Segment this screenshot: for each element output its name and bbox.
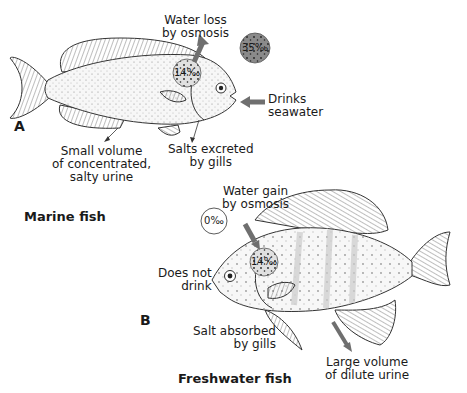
- water-loss-label: Water loss by osmosis: [162, 14, 229, 40]
- salts-pointer: [193, 120, 199, 140]
- internal-concentration-a: 14‰: [172, 67, 202, 78]
- marine-fish-drawing: [10, 38, 236, 135]
- salt-b-line2: by gills: [193, 338, 276, 351]
- marine-fish-title: Marine fish: [24, 210, 106, 223]
- does-not-drink-label: Does not drink: [158, 267, 212, 293]
- panel-a-letter: A: [14, 118, 25, 134]
- internal-concentration-b: 14‰: [249, 256, 279, 267]
- salts-excreted-label: Salts excreted by gills: [168, 143, 254, 169]
- water-gain-label: Water gain by osmosis: [222, 185, 289, 211]
- no-drink-line2: drink: [158, 280, 212, 293]
- drinks-seawater-arrow: [240, 96, 265, 108]
- drinks-line2: seawater: [268, 106, 323, 119]
- drinks-seawater-label: Drinks seawater: [268, 93, 323, 119]
- external-concentration-a: 35‰: [240, 42, 270, 53]
- freshwater-fish-title: Freshwater fish: [178, 372, 292, 385]
- panel-b-letter: B: [140, 312, 151, 328]
- external-concentration-b: 0‰: [199, 215, 229, 226]
- water-loss-line2: by osmosis: [162, 27, 229, 40]
- salt-absorbed-label: Salt absorbed by gills: [193, 325, 276, 351]
- salts-line2: by gills: [168, 156, 254, 169]
- dilute-urine-label: Large volume of dilute urine: [325, 356, 409, 382]
- urine-a-line3: salty urine: [52, 171, 151, 184]
- concentrated-urine-label: Small volume of concentrated, salty urin…: [52, 145, 151, 184]
- water-gain-line2: by osmosis: [222, 198, 289, 211]
- urine-b-line2: of dilute urine: [325, 369, 409, 382]
